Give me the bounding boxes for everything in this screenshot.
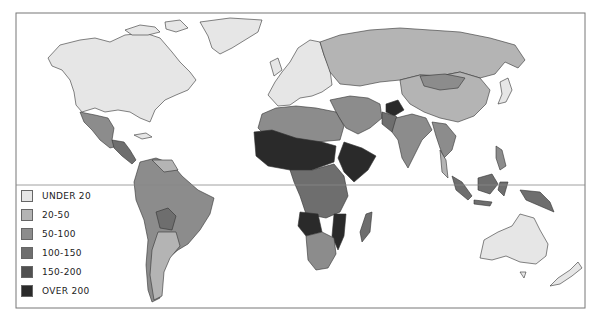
legend-label: OVER 200 xyxy=(42,286,89,296)
legend-swatch xyxy=(21,209,33,221)
legend-swatch xyxy=(21,228,33,240)
legend-label: UNDER 20 xyxy=(42,191,91,201)
legend-item-20-50: 20-50 xyxy=(16,205,128,224)
legend-item-over-200: OVER 200 xyxy=(16,281,128,300)
legend-item-under-20: UNDER 20 xyxy=(16,186,128,205)
legend-item-100-150: 100-150 xyxy=(16,243,128,262)
legend-swatch xyxy=(21,285,33,297)
legend-item-50-100: 50-100 xyxy=(16,224,128,243)
legend-label: 150-200 xyxy=(42,267,82,277)
legend-item-150-200: 150-200 xyxy=(16,262,128,281)
legend-swatch xyxy=(21,266,33,278)
legend-label: 50-100 xyxy=(42,229,76,239)
legend-swatch xyxy=(21,247,33,259)
legend-label: 100-150 xyxy=(42,248,82,258)
map-legend: UNDER 20 20-50 50-100 100-150 150-200 OV… xyxy=(16,186,128,300)
legend-swatch xyxy=(21,190,33,202)
legend-label: 20-50 xyxy=(42,210,70,220)
